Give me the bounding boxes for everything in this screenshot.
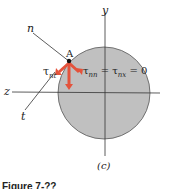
point-a-marker	[67, 59, 71, 63]
z-axis-label: z	[4, 86, 10, 97]
equals-zero: = 0	[126, 65, 147, 76]
y-axis-label: y	[102, 5, 108, 16]
tau-nt-label: τnt	[43, 66, 56, 80]
tau-nn-equation: τnn = τnx = 0	[83, 66, 147, 79]
n-axis-label: n	[27, 23, 34, 34]
equals-tau: = τ	[98, 65, 118, 76]
t-axis-label: t	[21, 111, 25, 122]
tau-nn-subscript: nn	[89, 71, 98, 79]
subfigure-label: (c)	[97, 161, 110, 171]
figure-caption: Figure 7-??	[2, 181, 56, 189]
point-a-label: A	[66, 49, 73, 59]
n-axis	[33, 33, 70, 62]
tau-nt-subscript: nt	[49, 72, 56, 80]
